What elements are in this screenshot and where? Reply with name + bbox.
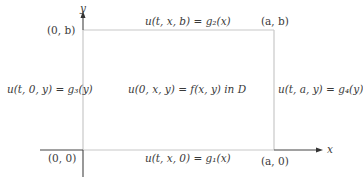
top-boundary-condition: u(t, x, b) = g₂(x) bbox=[145, 15, 231, 27]
initial-condition-label: u(0, x, y) = f(x, y) in D bbox=[128, 83, 246, 95]
right-boundary-condition: u(t, a, y) = g₄(y) bbox=[278, 83, 363, 95]
corner-label-bottom-right: (a, 0) bbox=[261, 155, 289, 167]
corner-label-top-right: (a, b) bbox=[261, 15, 289, 27]
corner-label-top-left: (0, b) bbox=[47, 24, 75, 36]
x-axis-label: x bbox=[327, 143, 333, 155]
corner-label-origin: (0, 0) bbox=[48, 152, 76, 164]
bottom-boundary-condition: u(t, x, 0) = g₁(x) bbox=[145, 152, 231, 164]
left-boundary-condition: u(t, 0, y) = g₃(y) bbox=[7, 83, 93, 95]
x-axis-arrow-icon bbox=[316, 148, 323, 153]
y-axis-label: y bbox=[80, 2, 86, 14]
